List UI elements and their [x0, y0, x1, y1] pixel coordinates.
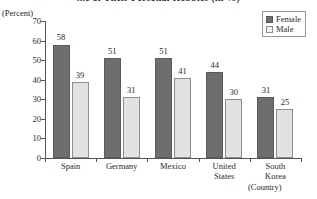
legend-label-female: Female [276, 15, 301, 24]
category-label-spain: Spain [45, 162, 96, 172]
bar-male-south-korea[interactable] [276, 109, 293, 158]
y-tick-label-20: 20 [15, 115, 41, 123]
y-tick-label-70: 70 [15, 17, 41, 25]
y-tick-10 [41, 138, 46, 139]
bar-value-label: 30 [219, 88, 248, 97]
y-tick-label-10: 10 [15, 134, 41, 142]
bar-value-label: 41 [168, 67, 197, 76]
legend-item-female[interactable]: Female [266, 14, 301, 24]
x-axis-unit-label: (Country) [248, 182, 282, 192]
y-axis-tick-labels: 010203040506070 [14, 21, 41, 158]
bar-female-united-states[interactable] [206, 72, 223, 158]
x-tick-5 [301, 158, 302, 162]
category-label-germany: Germany [96, 162, 147, 172]
category-label-united-states: United States [199, 162, 250, 181]
plot-area: 58395131514144303125 [45, 21, 301, 158]
legend-swatch-female-icon [266, 16, 273, 23]
y-tick-label-50: 50 [15, 56, 41, 64]
legend-swatch-male-icon [266, 26, 273, 33]
bar-female-spain[interactable] [53, 45, 70, 159]
bar-value-label: 51 [149, 47, 178, 56]
y-tick-30 [41, 99, 46, 100]
chart-legend: Female Male [262, 11, 306, 37]
y-tick-label-0: 0 [15, 154, 41, 162]
bar-value-label: 31 [117, 86, 146, 95]
bar-male-united-states[interactable] [225, 99, 242, 158]
bar-value-label: 58 [47, 33, 76, 42]
y-tick-40 [41, 80, 46, 81]
bar-male-spain[interactable] [72, 82, 89, 158]
bar-value-label: 31 [251, 86, 280, 95]
y-tick-20 [41, 119, 46, 120]
y-tick-50 [41, 60, 46, 61]
legend-label-male: Male [276, 25, 293, 34]
chart-title: ...e of Their Personal Hobbies (in %) [0, 0, 317, 3]
bar-value-label: 51 [98, 47, 127, 56]
bar-female-germany[interactable] [104, 58, 121, 158]
bar-value-label: 25 [270, 98, 299, 107]
category-label-mexico: Mexico [147, 162, 198, 172]
legend-item-male[interactable]: Male [266, 24, 301, 34]
bar-male-germany[interactable] [123, 97, 140, 158]
y-tick-70 [41, 21, 46, 22]
bar-male-mexico[interactable] [174, 78, 191, 158]
y-tick-label-60: 60 [15, 37, 41, 45]
bar-chart: ...e of Their Personal Hobbies (in %) (P… [0, 0, 317, 199]
y-tick-60 [41, 41, 46, 42]
x-axis-line [45, 158, 301, 159]
bar-value-label: 44 [200, 61, 229, 70]
category-label-south-korea: South Korea [250, 162, 301, 181]
y-tick-label-40: 40 [15, 76, 41, 84]
y-tick-label-30: 30 [15, 95, 41, 103]
bar-value-label: 39 [66, 71, 95, 80]
